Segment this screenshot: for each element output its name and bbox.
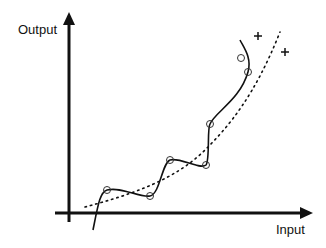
overfit-solid-curve [93, 40, 249, 230]
plus-marker-icon [281, 48, 289, 56]
y-axis-label: Output [18, 22, 57, 37]
smooth-fit-dotted-curve [85, 32, 280, 207]
data-point-circle [238, 55, 245, 62]
x-axis-arrowhead-icon [300, 207, 313, 219]
curve-fitting-diagram [0, 0, 326, 248]
plus-marker-icon [254, 32, 262, 40]
x-axis-label: Input [276, 222, 305, 237]
training-points [104, 55, 252, 200]
y-axis-arrowhead-icon [63, 12, 75, 25]
